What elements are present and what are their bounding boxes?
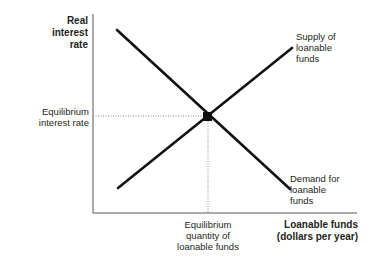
supply-curve-label: Supply of loanable funds [296, 31, 336, 64]
equilibrium-quantity-label: Equilibrium quantity of loanable funds [168, 219, 248, 252]
demand-curve-label: Demand for loanable funds [290, 173, 340, 206]
y-axis-label: Realinterestrate [20, 15, 88, 51]
demand-curve [117, 30, 290, 189]
x-axis-label: Loanable funds (dollars per year) [260, 219, 358, 243]
equilibrium-point [203, 112, 212, 121]
equilibrium-rate-label: Equilibrium interest rate [10, 106, 89, 128]
